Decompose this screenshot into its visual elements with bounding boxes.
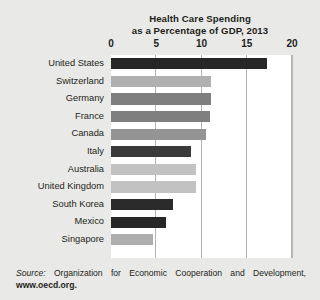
bar-row <box>111 90 292 108</box>
bar-series <box>111 55 292 258</box>
x-tick-15: 15 <box>241 38 252 49</box>
bar-south-korea <box>111 199 173 210</box>
bar-italy <box>111 146 191 157</box>
bar-united-kingdom <box>111 181 196 192</box>
bar-singapore <box>111 234 153 245</box>
category-label-italy: Italy <box>0 143 108 161</box>
bar-row <box>111 161 292 179</box>
source-text: Organization for Economic Cooperation an… <box>54 268 306 278</box>
category-label-mexico: Mexico <box>0 213 108 231</box>
chart-title-line-1: Health Care Spending <box>149 13 251 24</box>
category-label-australia: Australia <box>0 161 108 179</box>
category-label-singapore: Singapore <box>0 231 108 249</box>
category-label-united-kingdom: United Kingdom <box>0 178 108 196</box>
bar-row <box>111 143 292 161</box>
category-label-south-korea: South Korea <box>0 196 108 214</box>
category-labels: United StatesSwitzerlandGermanyFranceCan… <box>0 55 108 258</box>
source-label: Source: <box>16 268 46 278</box>
plot-area <box>111 55 293 258</box>
category-label-canada: Canada <box>0 125 108 143</box>
category-label-switzerland: Switzerland <box>0 73 108 91</box>
x-tick-10: 10 <box>196 38 207 49</box>
bar-mexico <box>111 217 166 228</box>
bar-australia <box>111 164 196 175</box>
x-tick-20: 20 <box>286 38 297 49</box>
x-tick-0: 0 <box>108 38 114 49</box>
bar-france <box>111 111 210 122</box>
source-note: Source: Organization for Economic Cooper… <box>16 268 306 291</box>
bar-germany <box>111 93 211 104</box>
bar-row <box>111 125 292 143</box>
bar-row <box>111 178 292 196</box>
x-axis-tick-labels: 05101520 <box>0 38 320 52</box>
bar-row <box>111 108 292 126</box>
bar-canada <box>111 129 206 140</box>
category-label-united-states: United States <box>0 55 108 73</box>
bar-row <box>111 196 292 214</box>
bar-row <box>111 73 292 91</box>
bar-row <box>111 213 292 231</box>
chart-title: Health Care Spending as a Percentage of … <box>100 13 300 36</box>
bar-united-states <box>111 58 267 69</box>
chart-title-line-2: as a Percentage of GDP, 2013 <box>100 25 300 37</box>
x-tick-5: 5 <box>153 38 159 49</box>
bar-row <box>111 231 292 249</box>
health-care-spending-chart: Health Care Spending as a Percentage of … <box>0 0 320 300</box>
category-label-france: France <box>0 108 108 126</box>
source-url: www.oecd.org. <box>16 280 77 290</box>
bar-switzerland <box>111 76 211 87</box>
category-label-germany: Germany <box>0 90 108 108</box>
bar-row <box>111 55 292 73</box>
